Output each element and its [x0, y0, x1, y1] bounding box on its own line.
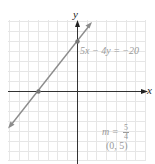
x-axis-label: x [147, 85, 152, 96]
intercept-label: (0, 5) [106, 141, 128, 151]
line-series [8, 22, 92, 129]
line-arrow-upper-icon [86, 22, 93, 29]
slope-label: m = 5 4 [102, 124, 129, 141]
x-intercept-point [36, 89, 40, 93]
slope-prefix: m = [102, 126, 118, 137]
coordinate-plane [0, 0, 155, 164]
y-axis-label: y [73, 9, 78, 20]
y-intercept-point [75, 39, 79, 43]
equation-label: 5x − 4y = −20 [80, 46, 139, 56]
graph-figure: y x 5x − 4y = −20 m = 5 4 (0, 5) [0, 0, 155, 164]
slope-fraction: 5 4 [123, 124, 129, 141]
